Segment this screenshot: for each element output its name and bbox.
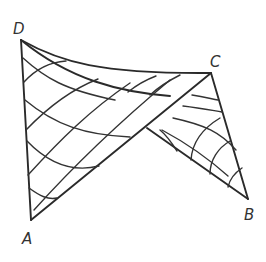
right-surface-grid [160, 95, 242, 187]
edge-AC [31, 73, 211, 220]
edge-DC-upper [21, 40, 211, 73]
hyperbolic-paraboloid-diagram [0, 0, 266, 262]
vertex-label-B: B [244, 208, 254, 223]
vertex-label-D: D [13, 22, 25, 37]
vertex-label-A: A [22, 232, 32, 247]
vertex-label-C: C [210, 55, 220, 70]
edge-CB [211, 73, 248, 199]
edge-DC-lower [21, 40, 170, 96]
left-surface-grid [23, 58, 170, 210]
